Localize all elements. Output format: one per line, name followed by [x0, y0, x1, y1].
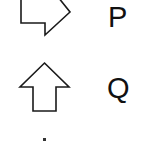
- arrow-up-outline-icon: [20, 63, 69, 111]
- shapes-layer: [0, 0, 160, 141]
- arrow-right-outline-icon: [21, 0, 70, 35]
- figure-canvas: P Q: [0, 0, 160, 141]
- label-p: P: [108, 3, 127, 32]
- label-q: Q: [107, 74, 130, 103]
- partial-shape-cut-off: [43, 138, 46, 141]
